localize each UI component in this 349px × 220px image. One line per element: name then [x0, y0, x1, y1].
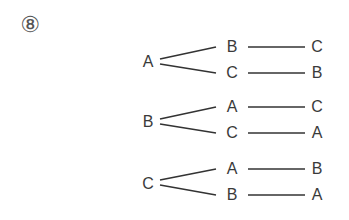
- tree-node-second: A: [227, 99, 238, 115]
- tree-node-third: C: [311, 99, 323, 115]
- branch-line: [160, 169, 216, 180]
- tree-node-third: C: [311, 39, 323, 55]
- tree-root: C: [142, 176, 154, 192]
- tree-lines: [0, 0, 349, 220]
- branch-line: [160, 107, 216, 119]
- branch-line: [160, 185, 216, 195]
- tree-node-second: C: [226, 125, 238, 141]
- tree-root: A: [143, 54, 154, 70]
- tree-node-second: B: [227, 187, 238, 203]
- tree-node-second: A: [227, 161, 238, 177]
- branch-line: [160, 124, 216, 133]
- tree-node-second: B: [227, 39, 238, 55]
- tree-node-third: B: [312, 161, 323, 177]
- branch-line: [160, 64, 216, 73]
- tree-node-second: C: [226, 65, 238, 81]
- branch-line: [160, 47, 216, 59]
- tree-node-third: B: [312, 65, 323, 81]
- tree-node-third: A: [312, 187, 323, 203]
- tree-node-third: A: [312, 125, 323, 141]
- tree-root: B: [143, 114, 154, 130]
